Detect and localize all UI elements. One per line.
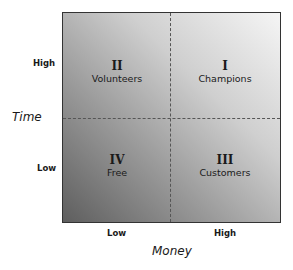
- quadrant-label: Champions: [171, 73, 279, 85]
- y-tick-low: Low: [37, 163, 56, 173]
- y-axis-title: Time: [12, 110, 42, 124]
- quadrant-volunteers: II Volunteers: [63, 59, 171, 85]
- quadrant-matrix: II Volunteers I Champions IV Free III Cu…: [62, 12, 281, 223]
- x-tick-high: High: [214, 228, 236, 238]
- quadrant-champions: I Champions: [171, 59, 279, 85]
- horizontal-divider: [63, 118, 280, 119]
- quadrant-free: IV Free: [63, 153, 171, 179]
- y-tick-high: High: [33, 58, 55, 68]
- quadrant-label: Volunteers: [63, 73, 171, 85]
- x-axis-title: Money: [152, 244, 192, 258]
- quadrant-customers: III Customers: [171, 153, 279, 179]
- quadrant-numeral: II: [63, 59, 171, 73]
- quadrant-numeral: IV: [63, 153, 171, 167]
- quadrant-label: Customers: [171, 167, 279, 179]
- quadrant-numeral: III: [171, 153, 279, 167]
- x-tick-low: Low: [107, 228, 126, 238]
- quadrant-label: Free: [63, 167, 171, 179]
- quadrant-numeral: I: [171, 59, 279, 73]
